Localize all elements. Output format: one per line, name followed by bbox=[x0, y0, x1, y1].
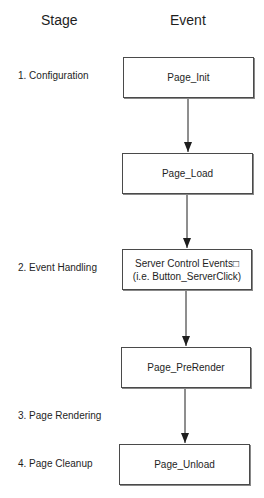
event-label: Page_PreRender bbox=[147, 361, 224, 374]
event-box-server-control-events: Server Control Events□ (i.e. Button_Serv… bbox=[122, 249, 252, 290]
event-box-page-init: Page_Init bbox=[123, 57, 254, 98]
event-box-page-unload: Page_Unload bbox=[119, 444, 250, 485]
event-box-page-load: Page_Load bbox=[122, 153, 253, 194]
event-label: Page_Init bbox=[167, 71, 209, 84]
event-label: Page_Load bbox=[162, 167, 213, 180]
event-box-page-prerender: Page_PreRender bbox=[121, 347, 251, 388]
event-label: Page_Unload bbox=[154, 458, 215, 471]
event-label-line1: Server Control Events□ bbox=[135, 257, 239, 270]
event-label-line2: (i.e. Button_ServerClick) bbox=[133, 270, 241, 283]
